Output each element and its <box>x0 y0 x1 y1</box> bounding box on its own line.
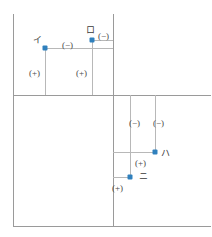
sign-label-i-plus: (+) <box>29 68 40 78</box>
station-node-ro[interactable] <box>90 38 95 43</box>
lead-ha-horizontal <box>113 152 155 153</box>
station-label-ro: ロ <box>86 25 95 35</box>
sign-label-ha-minus2: (−) <box>153 118 164 128</box>
sign-label-ha-minus1: (−) <box>129 118 140 128</box>
sign-label-ha-plus: (+) <box>135 158 146 168</box>
sign-label-ni-plus: (+) <box>112 183 123 193</box>
lead-i-vertical <box>45 48 46 95</box>
axis-left-vertical <box>13 14 14 227</box>
sign-label-i-minus: (−) <box>62 40 73 50</box>
sign-label-ro-minus: (−) <box>98 31 109 41</box>
axis-upper-horizontal <box>13 95 211 96</box>
station-node-i[interactable] <box>43 46 48 51</box>
station-label-i: イ <box>33 35 42 45</box>
axis-center-vertical <box>113 14 114 227</box>
axis-bottom-horizontal <box>13 226 211 227</box>
sign-label-ro-plus: (+) <box>76 68 87 78</box>
station-node-ni[interactable] <box>128 175 133 180</box>
lead-ni-vertical <box>130 95 131 177</box>
station-label-ni: ニ <box>139 171 148 181</box>
station-node-ha[interactable] <box>153 150 158 155</box>
station-label-ha: ハ <box>161 148 170 158</box>
lead-i-horizontal <box>45 48 113 49</box>
diagram-canvas: イ ロ ハ ニ (−) (−) (+) (+) (−) (−) (+) (+) <box>0 0 212 237</box>
